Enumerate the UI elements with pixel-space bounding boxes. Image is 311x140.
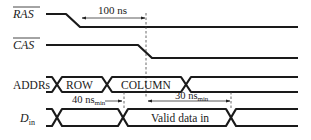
- din-label: Din: [19, 111, 35, 127]
- din-valid-label: Valid data in: [151, 112, 209, 124]
- svg-text:40 nsmin: 40 nsmin: [72, 94, 106, 107]
- setup-time-label: 40 nsmin: [72, 94, 106, 107]
- cas-waveform: [46, 45, 298, 58]
- svg-text:RAS: RAS: [12, 7, 34, 21]
- ras-label: RAS: [12, 7, 40, 21]
- svg-text:Din: Din: [19, 111, 35, 127]
- addrs-column-label: COLUMN: [121, 79, 172, 91]
- svg-text:CAS: CAS: [13, 38, 34, 52]
- cas-label: CAS: [13, 38, 40, 52]
- ras-waveform: [46, 14, 298, 27]
- addrs-label: ADDRs: [13, 79, 51, 91]
- addrs-row-label: ROW: [66, 79, 93, 91]
- timing-diagram: RAS 100 ns CAS ADDRs ROW COLUMN 40 nsmin…: [0, 0, 311, 140]
- ras-cas-delay-label: 100 ns: [98, 4, 127, 16]
